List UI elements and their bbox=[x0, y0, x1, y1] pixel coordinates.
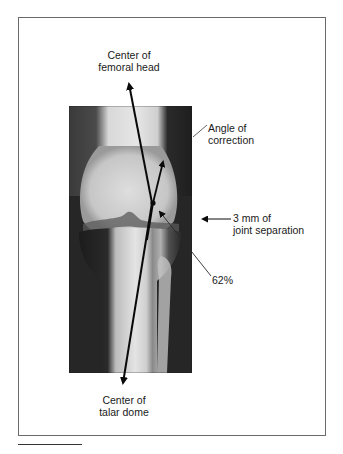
label-line: talar dome bbox=[90, 406, 158, 418]
label-talar-dome: Center of talar dome bbox=[90, 394, 158, 418]
caption-text-cropped bbox=[18, 450, 326, 454]
correction-axis-arrow bbox=[153, 162, 163, 203]
percent-leader-arrow bbox=[160, 212, 211, 276]
label-line: femoral head bbox=[93, 61, 165, 73]
mechanical-axis-up-arrow bbox=[129, 84, 152, 203]
label-percent: 62% bbox=[212, 274, 233, 286]
label-line: Center of bbox=[90, 394, 158, 406]
label-line: 3 mm of bbox=[233, 212, 304, 224]
angle-leader-line bbox=[193, 125, 207, 137]
label-line: joint separation bbox=[233, 224, 304, 236]
label-angle-correction: Angle of correction bbox=[208, 122, 254, 146]
caption-rule bbox=[18, 444, 82, 445]
label-line: correction bbox=[208, 134, 254, 146]
mechanical-axis-down-arrow bbox=[123, 203, 152, 383]
intersection-point bbox=[150, 200, 155, 205]
label-line: Angle of bbox=[208, 122, 254, 134]
label-line: Center of bbox=[93, 49, 165, 61]
label-joint-separation: 3 mm of joint separation bbox=[233, 212, 304, 236]
label-femoral-head: Center of femoral head bbox=[93, 49, 165, 73]
